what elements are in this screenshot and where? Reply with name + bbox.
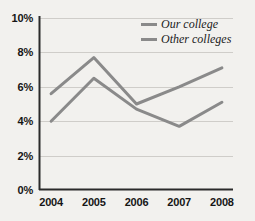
- y-axis-tick-label: 2%: [18, 150, 34, 162]
- legend-line-swatch-icon: [141, 38, 157, 41]
- y-axis-tick-label: 4%: [18, 115, 34, 127]
- x-axis-tick-label: 2007: [167, 196, 191, 208]
- series-lines: [51, 58, 222, 127]
- legend-item-2: Other colleges: [141, 33, 231, 45]
- legend-label: Other colleges: [161, 33, 231, 45]
- legend-label: Our college: [161, 18, 218, 30]
- chart-legend: Our collegeOther colleges: [141, 18, 231, 45]
- x-axis-tick-label: 2006: [125, 196, 149, 208]
- line-chart: 0%2%4%6%8%10% 20042005200620072008 Our c…: [0, 0, 255, 221]
- x-axis-tick-label: 2008: [210, 196, 234, 208]
- x-axis-tick-label: 2005: [82, 196, 106, 208]
- y-axis-tick-label: 10%: [12, 12, 33, 24]
- y-axis-tick-label: 8%: [18, 46, 34, 58]
- legend-item-1: Our college: [141, 18, 231, 30]
- x-axis-tick-label: 2004: [39, 196, 63, 208]
- y-axis-tick-label: 6%: [18, 81, 34, 93]
- y-axis-tick-label: 0%: [18, 184, 34, 196]
- legend-line-swatch-icon: [141, 23, 157, 26]
